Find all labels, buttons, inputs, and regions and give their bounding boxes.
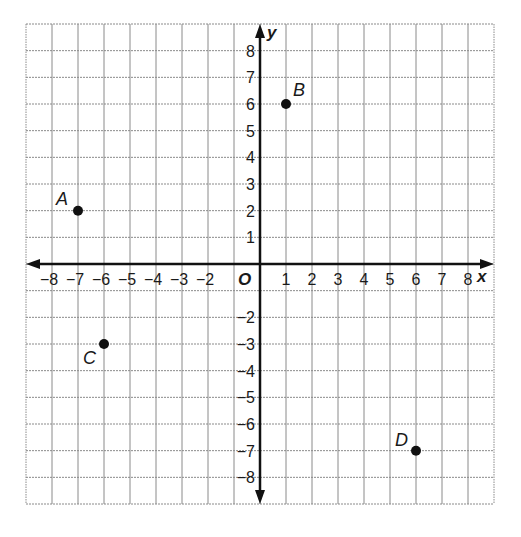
point-marker	[281, 99, 291, 109]
y-tick-label: −4	[237, 363, 255, 380]
x-tick-label: 2	[308, 271, 317, 288]
y-tick-label: 3	[246, 176, 255, 193]
point-label: A	[55, 189, 68, 209]
point-d: D	[395, 430, 421, 456]
y-tick-label: 4	[246, 149, 255, 166]
y-tick-label: −2	[237, 309, 255, 326]
x-tick-label: −8	[40, 271, 58, 288]
x-tick-label: −4	[144, 271, 162, 288]
axes: xyO	[26, 23, 494, 504]
y-axis-down-arrow-icon	[255, 490, 265, 504]
y-tick-label: 8	[246, 43, 255, 60]
x-tick-label: 1	[282, 271, 291, 288]
point-label: C	[83, 348, 97, 368]
y-axis-label: y	[266, 23, 278, 42]
y-tick-label: 2	[246, 203, 255, 220]
x-tick-label: 8	[464, 271, 473, 288]
x-axis-label: x	[476, 267, 488, 286]
x-axis-left-arrow-icon	[26, 259, 40, 269]
y-axis-up-arrow-icon	[255, 24, 265, 38]
x-tick-label: −7	[66, 271, 84, 288]
x-tick-label: 5	[386, 271, 395, 288]
y-tick-label: −3	[237, 336, 255, 353]
y-tick-label: 1	[246, 229, 255, 246]
y-tick-label: 6	[246, 96, 255, 113]
x-tick-label: 4	[360, 271, 369, 288]
point-label: B	[293, 80, 305, 100]
x-tick-label: 7	[438, 271, 447, 288]
x-tick-label: −5	[118, 271, 136, 288]
point-marker	[99, 339, 109, 349]
y-tick-label: −5	[237, 389, 255, 406]
x-tick-label: 6	[412, 271, 421, 288]
point-b: B	[281, 80, 305, 109]
origin-label: O	[238, 270, 251, 289]
point-marker	[411, 446, 421, 456]
y-tick-label: 7	[246, 69, 255, 86]
x-tick-label: −6	[92, 271, 110, 288]
y-tick-label: 5	[246, 123, 255, 140]
point-marker	[73, 206, 83, 216]
point-label: D	[395, 430, 408, 450]
y-tick-label: −6	[237, 416, 255, 433]
x-tick-label: −2	[196, 271, 214, 288]
coordinate-plane: xyO −8−7−6−5−4−3−21234567887654321−2−3−4…	[0, 0, 521, 537]
y-tick-label: −8	[237, 469, 255, 486]
point-a: A	[55, 189, 83, 216]
x-tick-label: −3	[170, 271, 188, 288]
x-tick-label: 3	[334, 271, 343, 288]
y-tick-label: −7	[237, 443, 255, 460]
point-c: C	[83, 339, 109, 368]
